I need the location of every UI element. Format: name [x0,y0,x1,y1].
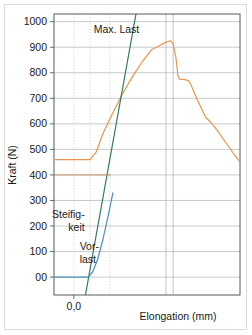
y-tick-label: 500 [29,143,47,155]
x-axis-tick-labels: 0,0 [67,295,82,312]
y-axis-title: Kraft (N) [6,145,18,185]
y-tick-label: 300 [29,194,47,206]
x-tick-label: 0,0 [67,300,82,312]
y-tick-label: 800 [29,66,47,78]
y-tick-label: 400 [29,169,47,181]
y-axis-tick-marks [50,22,54,277]
y-tick-label: 600 [29,117,47,129]
force-elongation-chart: 100090080070060050040030020010000 0,0 Kr… [0,0,252,335]
annotation-max-last: Max. Last [94,23,140,35]
y-tick-label: 00 [35,271,47,283]
x-axis-title: Elongation (mm) [139,310,216,322]
y-tick-label: 900 [29,41,47,53]
y-tick-label: 200 [29,220,47,232]
chart-figure: 100090080070060050040030020010000 0,0 Kr… [0,0,252,335]
y-tick-label: 700 [29,92,47,104]
y-tick-label: 1000 [24,15,48,27]
y-axis-tick-labels: 100090080070060050040030020010000 [24,15,48,282]
y-tick-label: 100 [29,245,47,257]
